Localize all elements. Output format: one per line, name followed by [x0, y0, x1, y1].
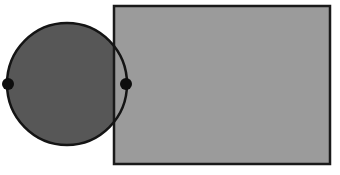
left-endpoint-point — [2, 78, 14, 90]
right-endpoint-point — [120, 78, 132, 90]
rectangle-shape — [114, 6, 330, 164]
shapes-svg — [0, 0, 340, 175]
figure-canvas — [0, 0, 340, 175]
